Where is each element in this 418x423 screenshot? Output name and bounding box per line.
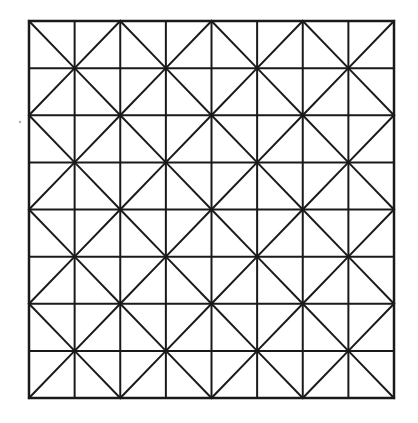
diagonal-line-down — [348, 162, 394, 209]
diagonal-line-down — [75, 257, 121, 304]
diagonal-line-up — [303, 162, 349, 209]
diagonal-line-up — [166, 304, 212, 351]
diagonal-line-up — [120, 351, 166, 398]
diagonal-line-down — [29, 210, 75, 257]
diagonal-line-down — [348, 257, 394, 304]
diagonal-line-up — [75, 210, 121, 257]
diagonal-line-down — [212, 115, 258, 162]
diagonal-line-up — [120, 162, 166, 209]
stray-mark — [19, 121, 21, 123]
diagonal-line-up — [75, 115, 121, 162]
diagonal-line-down — [29, 115, 75, 162]
diagonal-line-down — [120, 115, 166, 162]
diagonal-line-up — [29, 68, 75, 115]
diagonal-line-up — [120, 68, 166, 115]
diagonal-line-down — [166, 351, 212, 398]
diagonal-line-down — [303, 115, 349, 162]
diagonal-line-down — [212, 304, 258, 351]
diagonal-line-down — [212, 210, 258, 257]
diagonal-line-down — [29, 304, 75, 351]
diagonal-line-up — [212, 68, 258, 115]
diagonal-line-down — [348, 68, 394, 115]
diagonal-line-down — [166, 162, 212, 209]
diagonal-line-down — [120, 304, 166, 351]
diagonal-line-down — [348, 351, 394, 398]
diagonal-line-down — [120, 210, 166, 257]
diagonal-line-down — [303, 21, 349, 68]
diagonal-line-up — [257, 304, 303, 351]
diagonal-line-down — [212, 21, 258, 68]
diagonal-line-down — [257, 351, 303, 398]
diagonal-line-down — [257, 68, 303, 115]
diagonal-line-up — [348, 115, 394, 162]
diagonal-line-down — [120, 21, 166, 68]
diagonal-line-down — [166, 257, 212, 304]
diagonal-line-down — [166, 68, 212, 115]
diagonal-line-up — [29, 351, 75, 398]
diagonal-line-up — [212, 162, 258, 209]
diagonal-line-up — [120, 257, 166, 304]
diagonal-line-up — [166, 21, 212, 68]
diagonal-line-up — [348, 21, 394, 68]
diagonal-line-up — [212, 351, 258, 398]
diagonal-line-up — [75, 304, 121, 351]
grid-diagram — [0, 0, 418, 423]
diagonal-line-down — [75, 351, 121, 398]
diagonal-line-up — [257, 115, 303, 162]
diagonal-line-down — [29, 21, 75, 68]
diagonal-line-down — [257, 162, 303, 209]
diagonal-line-down — [75, 68, 121, 115]
diagonal-line-up — [303, 257, 349, 304]
diagonal-line-down — [257, 257, 303, 304]
diagonal-line-up — [212, 257, 258, 304]
diagonal-line-up — [29, 162, 75, 209]
diagonal-line-up — [303, 68, 349, 115]
diagonal-line-up — [75, 21, 121, 68]
diagonal-line-up — [166, 210, 212, 257]
diagonal-line-up — [257, 21, 303, 68]
diagonal-line-down — [303, 210, 349, 257]
diagonal-line-up — [348, 210, 394, 257]
diagonal-line-down — [303, 304, 349, 351]
diagonal-line-up — [257, 210, 303, 257]
diagonal-line-up — [303, 351, 349, 398]
diagonal-line-down — [75, 162, 121, 209]
diagonal-line-up — [29, 257, 75, 304]
diagonal-line-up — [166, 115, 212, 162]
diagonal-line-up — [348, 304, 394, 351]
